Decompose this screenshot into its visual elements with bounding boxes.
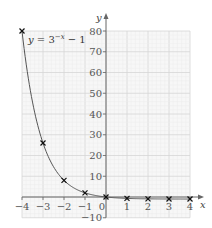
x-tick-label: −4 bbox=[15, 201, 30, 212]
x-tick-label: −2 bbox=[57, 201, 72, 212]
equation-exponent: −x bbox=[55, 33, 65, 41]
y-tick-label: 60 bbox=[89, 67, 102, 78]
x-tick-label: 4 bbox=[187, 201, 193, 212]
equation-base: = 3 bbox=[34, 34, 55, 45]
y-tick-label: 20 bbox=[89, 150, 102, 161]
x-tick-label: −3 bbox=[36, 201, 51, 212]
x-tick-label: 2 bbox=[145, 201, 151, 212]
y-tick-label: 80 bbox=[89, 26, 102, 37]
y-tick-label: 70 bbox=[89, 46, 102, 57]
y-tick-label: 40 bbox=[89, 109, 102, 120]
x-tick-label: 3 bbox=[166, 201, 172, 212]
x-tick-label: 1 bbox=[124, 201, 130, 212]
x-axis-label: x bbox=[200, 199, 206, 210]
y-axis-arrow-icon bbox=[104, 13, 109, 19]
x-tick-labels: −4−3−2−101234 bbox=[15, 201, 194, 212]
y-tick-label: 30 bbox=[89, 129, 102, 140]
y-tick-label: −10 bbox=[81, 212, 102, 223]
x-tick-label: −1 bbox=[78, 201, 93, 212]
y-axis-label: y bbox=[95, 12, 102, 23]
equation-suffix: − 1 bbox=[65, 34, 86, 45]
function-graph: −4−3−2−101234 −101020304050607080 x y y … bbox=[0, 0, 212, 228]
x-tick-label: 0 bbox=[99, 201, 105, 212]
y-tick-label: 10 bbox=[89, 171, 102, 182]
y-tick-label: 50 bbox=[89, 88, 102, 99]
